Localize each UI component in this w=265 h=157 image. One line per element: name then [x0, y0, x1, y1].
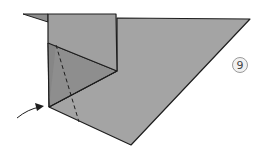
step-number-badge: 9	[233, 58, 248, 73]
top-left-flap	[23, 14, 48, 22]
arrowhead-icon	[35, 103, 44, 111]
origami-diagram: 9	[0, 0, 265, 157]
step-number: 9	[237, 59, 244, 72]
